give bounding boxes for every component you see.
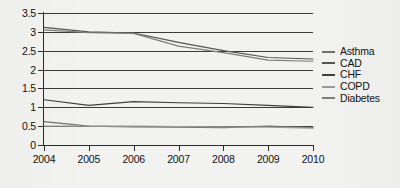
legend-swatch-diabetes bbox=[322, 97, 335, 99]
legend-swatch-chf bbox=[322, 74, 335, 76]
x-axis-label-2004: 2004 bbox=[24, 153, 64, 165]
legend-item-diabetes[interactable]: Diabetes bbox=[322, 92, 398, 104]
y-axis-label-0-5: 0.5 bbox=[0, 121, 36, 131]
x-tick-2007 bbox=[179, 145, 180, 151]
legend-label-copd: COPD bbox=[340, 81, 370, 92]
y-axis-label-3: 3 bbox=[0, 27, 36, 37]
legend-label-diabetes: Diabetes bbox=[340, 93, 380, 104]
y-axis-label-2-5: 2.5 bbox=[0, 46, 36, 56]
legend-item-chf[interactable]: CHF bbox=[322, 69, 398, 81]
legend-label-asthma: Asthma bbox=[340, 46, 374, 57]
x-tick-2006 bbox=[134, 145, 135, 151]
x-tick-2009 bbox=[268, 145, 269, 151]
x-axis-label-2006: 2006 bbox=[114, 153, 154, 165]
legend-swatch-asthma bbox=[322, 51, 335, 53]
x-tick-end bbox=[313, 145, 314, 151]
legend-label-cad: CAD bbox=[340, 58, 362, 69]
legend-label-chf: CHF bbox=[340, 69, 361, 80]
legend-swatch-copd bbox=[322, 86, 335, 88]
y-axis-label-0: 0 bbox=[0, 140, 36, 150]
x-axis-label-2009: 2009 bbox=[248, 153, 288, 165]
x-axis-label-2007: 2007 bbox=[159, 153, 199, 165]
line-chart: 00.511.522.533.5 20042005200620072008200… bbox=[0, 0, 400, 188]
series-line-diabetes bbox=[44, 30, 313, 61]
legend-item-cad[interactable]: CAD bbox=[322, 58, 398, 70]
x-tick-2008 bbox=[223, 145, 224, 151]
y-axis-label-2: 2 bbox=[0, 65, 36, 75]
series-line-chf bbox=[44, 100, 313, 108]
y-axis-label-1: 1 bbox=[0, 102, 36, 112]
y-axis-label-3-5: 3.5 bbox=[0, 8, 36, 18]
x-axis-label-2010: 2010 bbox=[293, 153, 333, 165]
x-tick-2004 bbox=[44, 145, 45, 151]
legend-swatch-cad bbox=[322, 62, 335, 64]
x-axis-label-2005: 2005 bbox=[69, 153, 109, 165]
x-axis-label-2008: 2008 bbox=[203, 153, 243, 165]
x-tick-2005 bbox=[89, 145, 90, 151]
legend-item-asthma[interactable]: Asthma bbox=[322, 46, 398, 58]
chart-legend: Asthma CAD CHF COPD Diabetes bbox=[322, 46, 398, 104]
y-axis-label-1-5: 1.5 bbox=[0, 83, 36, 93]
series-lines bbox=[44, 13, 313, 145]
legend-item-copd[interactable]: COPD bbox=[322, 81, 398, 93]
